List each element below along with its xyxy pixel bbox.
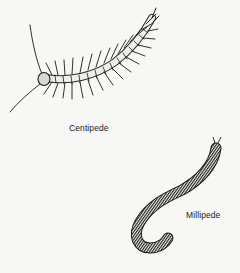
centipede-label: Centipede [69,123,109,133]
millipede-label: Millipede [186,210,220,220]
illustration-figure: Centipede Millipede [0,0,240,273]
millipede-illustration [0,0,240,273]
